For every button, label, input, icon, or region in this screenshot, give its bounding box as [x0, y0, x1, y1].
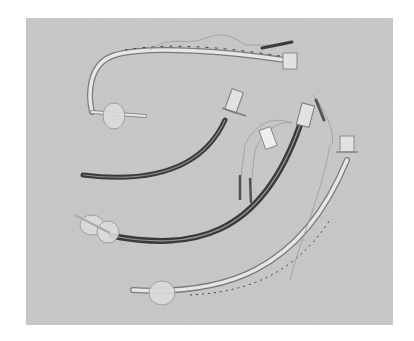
connector: [340, 136, 354, 152]
background-texture: [26, 18, 393, 325]
photo-frame: [26, 18, 393, 325]
connector: [283, 53, 297, 69]
cuff: [149, 281, 175, 305]
tubes-photo: [26, 18, 393, 325]
cuff: [103, 103, 125, 129]
